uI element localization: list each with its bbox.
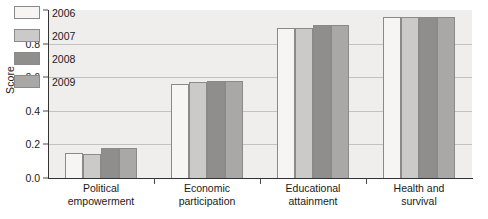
legend-label: 2006 [52, 7, 75, 19]
x-tick-mark [154, 179, 155, 184]
legend-swatch [14, 29, 40, 42]
bar [295, 28, 313, 178]
bar [65, 153, 83, 178]
legend-label: 2007 [52, 30, 75, 42]
y-tick-label: 0.0 [25, 172, 40, 184]
bar [401, 17, 419, 178]
bar-group [65, 10, 137, 178]
x-axis-label-line: attainment [260, 195, 366, 208]
legend-item[interactable]: 2007 [14, 25, 75, 46]
plot-area [48, 10, 472, 178]
x-axis-label-line: survival [366, 195, 472, 208]
y-tick-label: 0.2 [25, 138, 40, 150]
legend-item[interactable]: 2006 [14, 2, 75, 23]
x-axis-label: Politicalempowerment [48, 182, 154, 207]
bar [171, 84, 189, 178]
x-axis-label-line: Economic [154, 182, 260, 195]
bar [383, 17, 401, 178]
x-axis-label-line: empowerment [48, 195, 154, 208]
legend: 2006200720082009 [14, 2, 75, 94]
x-tick-mark [366, 179, 367, 184]
bar [277, 28, 295, 178]
bar [83, 154, 101, 178]
bar-group [277, 10, 349, 178]
bar [419, 17, 437, 178]
x-axis-label-line: participation [154, 195, 260, 208]
bar [207, 81, 225, 178]
x-axis-label-line: Educational [260, 182, 366, 195]
x-axis-label: Economicparticipation [154, 182, 260, 207]
x-axis-label-line: Political [48, 182, 154, 195]
bar [189, 82, 207, 178]
x-tick-mark [260, 179, 261, 184]
bar [101, 148, 119, 178]
legend-swatch [14, 6, 40, 19]
x-axis-label-line: Health and [366, 182, 472, 195]
x-axis-label: Educationalattainment [260, 182, 366, 207]
legend-label: 2009 [52, 76, 75, 88]
legend-item[interactable]: 2008 [14, 48, 75, 69]
bar-group [383, 10, 455, 178]
bar-group [171, 10, 243, 178]
bar [225, 81, 243, 178]
legend-item[interactable]: 2009 [14, 71, 75, 92]
bar [119, 148, 137, 178]
bar-chart: Score 0.00.20.40.60.81.0 Politicalempowe… [0, 0, 488, 219]
legend-swatch [14, 52, 40, 65]
legend-swatch [14, 75, 40, 88]
bar [331, 25, 349, 178]
legend-label: 2008 [52, 53, 75, 65]
x-axis-label: Health andsurvival [366, 182, 472, 207]
bar [313, 25, 331, 178]
x-axis-labels: PoliticalempowermentEconomicparticipatio… [48, 182, 472, 219]
y-tick-label: 0.4 [25, 105, 40, 117]
bar [437, 17, 455, 178]
